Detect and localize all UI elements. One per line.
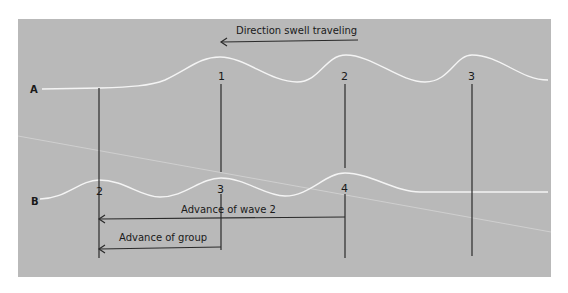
advance-group-label: Advance of group	[119, 232, 207, 243]
wave-b-number-2: 2	[96, 185, 103, 198]
wave-a-number-2: 2	[341, 70, 348, 83]
row-label-a: A	[30, 84, 38, 95]
wave-a-number-1: 1	[218, 70, 225, 83]
swell-group-diagram: Direction swell traveling A B 1 2 3 2 3 …	[0, 0, 568, 293]
direction-label: Direction swell traveling	[236, 25, 357, 36]
row-label-b: B	[31, 196, 39, 207]
wave-a-number-3: 3	[468, 70, 475, 83]
wave-b-number-3: 3	[217, 183, 224, 196]
advance-wave-label: Advance of wave 2	[181, 204, 276, 215]
wave-b-number-4: 4	[341, 182, 348, 195]
diagram-panel	[18, 19, 551, 277]
